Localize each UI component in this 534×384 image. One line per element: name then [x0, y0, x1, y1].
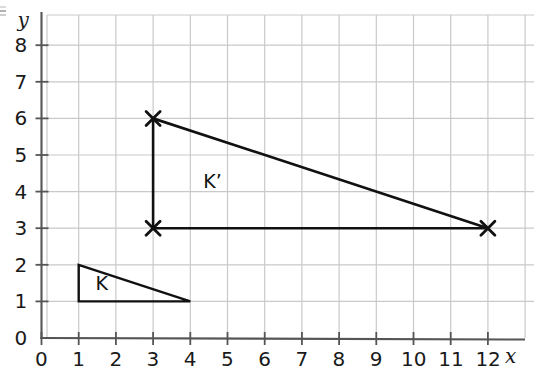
shape-label-k: K	[95, 274, 107, 293]
x-axis-line	[42, 338, 525, 340]
x-tick-label: 0	[35, 349, 48, 369]
x-tick-label: 6	[258, 349, 271, 369]
y-tick-label: 6	[15, 108, 28, 128]
shape-label-k-prime: K’	[203, 172, 222, 191]
x-tick-label: 9	[370, 349, 383, 369]
y-tick-label: 7	[15, 72, 28, 92]
x-tick-label: 5	[221, 349, 234, 369]
y-tick-label: 0	[15, 328, 28, 348]
y-tick-label: 8	[15, 35, 28, 55]
x-tick-label: 4	[184, 349, 197, 369]
axis-ticks	[36, 45, 488, 345]
y-axis-label: y	[18, 10, 29, 30]
x-tick-label: 1	[72, 349, 85, 369]
x-tick-label: 8	[333, 349, 346, 369]
axis-lines	[42, 13, 525, 340]
grid-vertical-lines	[47, 15, 525, 338]
shapes-layer	[79, 118, 488, 301]
plot-canvas	[0, 0, 534, 384]
x-tick-label: 10	[401, 349, 426, 369]
x-axis-label: x	[505, 346, 516, 366]
y-tick-label: 2	[15, 255, 28, 275]
x-tick-label: 2	[109, 349, 122, 369]
y-tick-label: 1	[15, 291, 28, 311]
y-tick-label: 4	[15, 182, 28, 202]
grid-horizontal-lines	[47, 15, 534, 301]
coordinate-grid-figure: 0123456789101112 012345678 x y KK’	[0, 0, 534, 384]
x-tick-label: 7	[295, 349, 308, 369]
x-tick-label: 12	[475, 349, 500, 369]
y-tick-label: 5	[15, 145, 28, 165]
y-tick-label: 3	[15, 218, 28, 238]
x-tick-label: 3	[147, 349, 160, 369]
x-tick-label: 11	[438, 349, 463, 369]
